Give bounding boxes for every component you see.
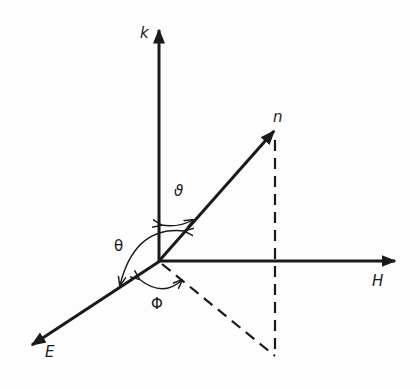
k-axis-label: k [140,24,149,42]
vartheta-label: ϑ [174,182,183,200]
e-axis-label: E [45,343,54,361]
diagram-canvas: k n H E ϑ θ Φ [0,0,420,389]
e-axis [32,261,160,345]
vartheta-arc [161,220,193,226]
theta-arc [120,230,185,285]
projection-diagonal [162,264,275,356]
phi-label: Φ [151,295,163,313]
vector-diagram [0,0,420,389]
h-axis-label: H [372,272,383,290]
n-vector-label: n [273,108,283,126]
theta-label: θ [114,237,123,255]
phi-arc [139,279,182,289]
